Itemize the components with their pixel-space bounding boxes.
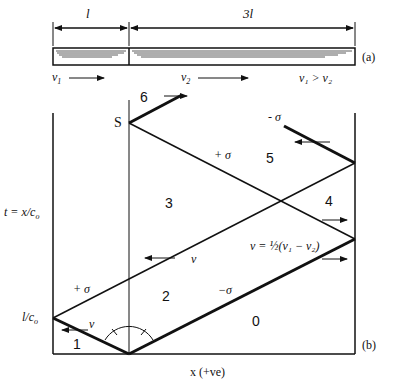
region-5-label: 5 [266,151,274,165]
length-right-label: 3l [243,7,253,20]
velocity-region-1-label: v [89,318,94,330]
velocity-region-2-label: v [191,253,196,265]
region-4-label: 4 [325,194,333,208]
region-0-label: 0 [252,314,260,328]
velocity-v1-label: v1 [52,71,61,86]
length-left-label: l [86,7,90,20]
plus-sigma-lower-label: + σ [73,283,90,295]
minus-sigma-upper-label: - σ [268,111,281,123]
x-axis-label: x (+ve) [190,366,225,378]
y-axis-label: t = x/co [4,206,39,221]
bar-diagram [53,22,355,78]
velocity-formula-label: v = ½(v₁ − v₂) [250,240,320,252]
minus-sigma-lower-label: −σ [218,284,232,296]
region-3-label: 3 [165,196,173,210]
wave-diagram-canvas [0,0,394,386]
velocity-condition-label: v₁ > v₂ [299,72,332,84]
plus-sigma-upper-label: + σ [214,149,231,161]
region-2-label: 2 [162,289,170,303]
part-a-tag: (a) [362,51,375,63]
y-tick-label: l/co [22,311,38,326]
region-1-label: 1 [73,337,81,351]
point-s-label: S [114,116,122,130]
part-b-tag: (b) [362,339,376,351]
region-6-label: 6 [140,90,148,104]
wave-lines [53,95,355,354]
velocity-v2-label: v2 [181,71,190,86]
